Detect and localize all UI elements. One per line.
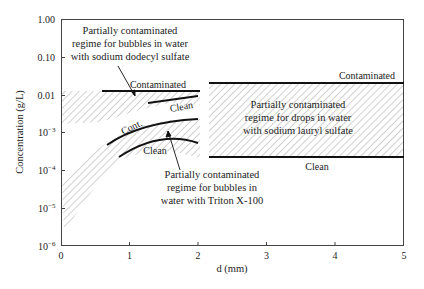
x-tick-4: 4 [333, 250, 338, 261]
y-tick-0.1: 0.10 [38, 52, 56, 63]
x-tick-2: 2 [196, 250, 201, 261]
y-tick-1: 1.00 [38, 14, 56, 25]
sls-clean-label: Clean [305, 161, 328, 172]
svg-text:Partially contaminated: Partially contaminated [251, 99, 347, 110]
y-tick-1e-5: 10−5 [38, 202, 56, 214]
y-tick-1e-3: 10−3 [38, 126, 56, 138]
y-tick-1e-6: 10−6 [38, 240, 56, 252]
y-tick-1e-4: 10−4 [38, 164, 56, 176]
sds-contaminated-label: Contaminated [130, 79, 186, 90]
svg-text:regime for bubbles in: regime for bubbles in [167, 182, 258, 193]
y-tick-labels: 1.00 0.10 0.01 10−3 10−4 10−5 10−6 [38, 14, 56, 252]
chart: 1.00 0.10 0.01 10−3 10−4 10−5 10−6 0 1 2… [0, 0, 424, 289]
svg-text:regime for drops in water: regime for drops in water [245, 112, 352, 123]
x-tick-0: 0 [59, 250, 64, 261]
x-axis-label: d (mm) [216, 263, 248, 275]
triton-clean-label: Clean [143, 145, 166, 156]
svg-text:with sodium dodecyl sulfate: with sodium dodecyl sulfate [71, 51, 190, 62]
svg-text:water with Triton X-100: water with Triton X-100 [161, 195, 263, 206]
x-tick-labels: 0 1 2 3 4 5 [59, 250, 407, 261]
x-tick-5: 5 [402, 250, 407, 261]
svg-text:regime for bubbles in water: regime for bubbles in water [72, 38, 189, 49]
y-tick-0.01: 0.01 [38, 90, 56, 101]
sls-contaminated-label: Contaminated [339, 70, 395, 81]
x-tick-1: 1 [127, 250, 132, 261]
svg-text:Partially contaminated: Partially contaminated [165, 169, 261, 180]
y-axis-label: Concentration (g/L) [14, 90, 26, 174]
x-tick-3: 3 [264, 250, 269, 261]
svg-text:Partially contaminated: Partially contaminated [83, 25, 179, 36]
svg-text:with sodium lauryl sulfate: with sodium lauryl sulfate [243, 125, 353, 136]
